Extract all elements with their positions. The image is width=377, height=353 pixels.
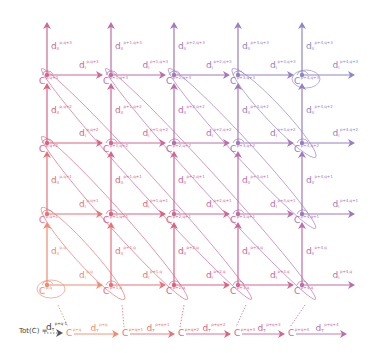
vertical-differential-label: dIIp+3,q+3 (242, 41, 269, 51)
horizontal-differential-label: dIp+1,q+2 (143, 128, 169, 138)
total-differential-label: dTp+q+1 (147, 323, 170, 333)
total-complex-term: Cp+q+2 (178, 328, 199, 338)
vertical-differential-label: dIIp+1,q+3 (115, 41, 142, 51)
grid-node-label: Cp+1,q+2 (103, 144, 128, 154)
horizontal-differential-label: dIp+4,q+2 (333, 128, 359, 138)
vertical-differential-label: dIIp+4,q (306, 246, 327, 256)
grid-node-label: Cp,q+3 (39, 76, 58, 86)
vertical-differential-label: dIIp+2,q+1 (178, 175, 205, 185)
vertical-differential-label: dIIp+1,q (115, 246, 136, 256)
horizontal-differential-label: dIp+1,q+3 (143, 60, 169, 70)
grid-node-label: Cp+1,q (103, 286, 122, 296)
tot-label: Tot(C) = (19, 327, 48, 335)
total-differential-label: dTp+q+2 (203, 323, 226, 333)
horizontal-differential-label: dIp+1,q (143, 270, 163, 280)
grid-node-label: Cp,q (39, 286, 52, 296)
horizontal-differential-label: dIp+4,q (333, 270, 353, 280)
grid-node-label: Cp+2,q+3 (166, 76, 191, 86)
grid-node-label: Cp+1,q+1 (103, 215, 128, 225)
horizontal-differential-label: dIp+3,q (270, 270, 290, 280)
projection-dotted-line (290, 305, 305, 327)
grid-node-label: Cp,q+2 (39, 144, 58, 154)
vertical-differential-label: dIIp+1,q+2 (115, 105, 142, 115)
grid-node-label: Cp+4,q+3 (294, 76, 319, 86)
horizontal-differential-label: dIp+2,q+1 (206, 199, 232, 209)
grid-node-label: Cp+3,q+3 (230, 76, 255, 86)
projection-dotted-line (236, 305, 246, 327)
horizontal-differential-label: dIp,q+1 (79, 199, 99, 209)
grid-node-label: Cp+3,q+1 (230, 215, 255, 225)
vertical-differential-label: dIIp,q+3 (51, 41, 72, 51)
grid-node-label: Cp+4,q+1 (294, 215, 319, 225)
vertical-differential-label: dIIp+1,q+1 (115, 175, 142, 185)
incoming-total-differential-label: dTp+q-1 (46, 322, 67, 332)
horizontal-differential-label: dIp+4,q+1 (333, 199, 359, 209)
vertical-differential-label: dIIp+4,q+1 (306, 175, 333, 185)
horizontal-differential-label: dIp+3,q+1 (270, 199, 296, 209)
vertical-differential-label: dIIp+4,q+2 (306, 105, 333, 115)
vertical-differential-label: dIIp+3,q+2 (242, 105, 269, 115)
horizontal-differential-label: dIp,q+2 (79, 128, 99, 138)
horizontal-differential-label: dIp+2,q+3 (206, 60, 232, 70)
total-complex-term: Cp+q (66, 328, 81, 338)
vertical-differential-label: dIIp+2,q+3 (178, 41, 205, 51)
horizontal-differential-label: dIp,q (79, 270, 93, 280)
horizontal-differential-label: dIp+4,q+3 (333, 60, 359, 70)
total-complex-prefix: Tot(C) = (19, 327, 48, 335)
horizontal-differential-label: dIp+3,q+3 (270, 60, 296, 70)
grid-node-label: Cp+4,q (294, 286, 313, 296)
grid-node-label: Cp+3,q (230, 286, 249, 296)
vertical-differential-label: dIIp+2,q+2 (178, 105, 205, 115)
grid-node-label: Cp+1,q+3 (103, 76, 128, 86)
grid-node-label: Cp+4,q+2 (294, 144, 319, 154)
projection-dotted-line (122, 305, 124, 327)
horizontal-differential-label: dIp+3,q+2 (270, 128, 296, 138)
total-complex-term: Cp+q+1 (122, 328, 143, 338)
total-complex-term: Cp+q+3 (234, 328, 255, 338)
vertical-differential-label: dIIp,q (51, 246, 66, 256)
total-complex-term: Cp+q+4 (288, 328, 309, 338)
horizontal-differential-label: dIp+2,q (206, 270, 226, 280)
vertical-differential-label: dIIp+3,q+1 (242, 175, 269, 185)
grid-node-label: Cp+2,q+1 (166, 215, 191, 225)
vertical-differential-label: dIIp+3,q (242, 246, 263, 256)
horizontal-differential-label: dIp+2,q+2 (206, 128, 232, 138)
total-differential-label: dTp+q+3 (258, 323, 281, 333)
vertical-differential-label: dIIp+2,q (178, 246, 199, 256)
vertical-differential-label: dIIp+4,q+3 (306, 41, 333, 51)
grid-node-label: Cp+2,q+2 (166, 144, 191, 154)
total-differential-label: dTp+q+4 (316, 323, 339, 333)
horizontal-differential-label: dIp,q+3 (79, 60, 99, 70)
grid-node-label: Cp+2,q (166, 286, 185, 296)
total-differential-label: dTp+q (91, 323, 108, 333)
vertical-differential-label: dIIp,q+1 (51, 175, 72, 185)
grid-node-label: Cp+3,q+2 (230, 144, 255, 154)
horizontal-differential-label: dIp+1,q+1 (143, 199, 169, 209)
projection-dotted-line (180, 305, 184, 327)
grid-node-label: Cp,q+1 (39, 215, 58, 225)
vertical-differential-label: dIIp,q+2 (51, 105, 72, 115)
